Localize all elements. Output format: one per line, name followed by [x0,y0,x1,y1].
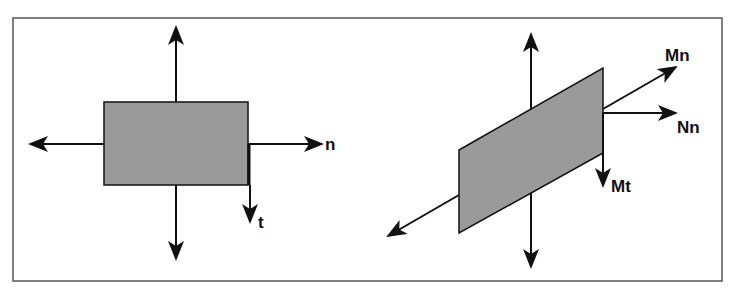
right-panel: Mn Nn Mt [388,34,700,267]
mn-arrow [603,67,676,109]
label-mn: Mn [665,46,690,65]
label-nn: Nn [677,118,700,137]
left-panel: n t [30,27,335,259]
diagonal-lower-left-arrow [388,195,459,236]
diagram-canvas: n t Mn Nn Mt [0,0,740,294]
label-n: n [325,135,335,154]
label-t: t [258,213,264,232]
rectangular-element [104,102,248,185]
label-mt: Mt [611,177,631,196]
